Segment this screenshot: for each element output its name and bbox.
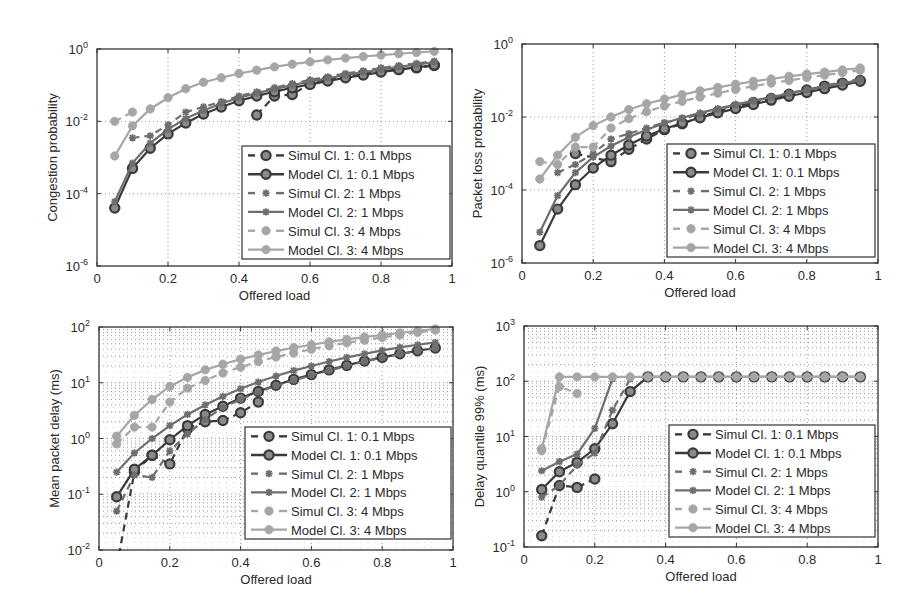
y-tick-label: 101 bbox=[71, 374, 90, 391]
x-tick-label: 0 bbox=[520, 552, 527, 567]
x-tick-label: 0 bbox=[518, 268, 525, 283]
legend: Simul Cl. 1: 0.1 MbpsModel Cl. 1: 0.1 Mb… bbox=[669, 425, 875, 537]
x-tick-label: 0.4 bbox=[230, 271, 248, 286]
x-axis-label: Offered load bbox=[665, 569, 736, 584]
legend-label: Simul Cl. 3: 4 Mbps bbox=[288, 224, 401, 239]
x-tick-label: 0.8 bbox=[798, 268, 816, 283]
x-tick-label: 0.8 bbox=[798, 552, 816, 567]
legend-label: Model Cl. 1: 0.1 Mbps bbox=[291, 448, 418, 463]
legend-label: Simul Cl. 1: 0.1 Mbps bbox=[288, 148, 412, 163]
y-tick-label: 10-1 bbox=[68, 485, 90, 502]
y-tick-label: 10-2 bbox=[68, 541, 90, 558]
x-tick-label: 1 bbox=[448, 271, 455, 286]
legend-label: Simul Cl. 1: 0.1 Mbps bbox=[291, 429, 415, 444]
x-axis-label: Offered load bbox=[239, 288, 310, 303]
subplot-packet-loss-probability: 00.20.40.60.8110-610-410-2100Offered loa… bbox=[470, 35, 882, 300]
x-tick-label: 0.4 bbox=[657, 552, 675, 567]
legend-label: Model Cl. 3: 4 Mbps bbox=[715, 521, 831, 536]
y-tick-label: 10-6 bbox=[491, 254, 513, 271]
legend-label: Model Cl. 2: 1 Mbps bbox=[715, 483, 831, 498]
subplot-congestion-probability: 00.20.40.60.8110-610-410-2100Offered loa… bbox=[45, 40, 456, 303]
y-tick-label: 100 bbox=[494, 35, 513, 52]
x-tick-label: 0.4 bbox=[655, 268, 673, 283]
x-axis-label: Offered load bbox=[240, 572, 311, 587]
legend-label: Simul Cl. 2: 1 Mbps bbox=[715, 465, 828, 480]
legend: Simul Cl. 1: 0.1 MbpsModel Cl. 1: 0.1 Mb… bbox=[242, 146, 450, 259]
legend-label: Simul Cl. 3: 4 Mbps bbox=[715, 502, 828, 517]
y-tick-label: 100 bbox=[69, 40, 88, 57]
x-tick-label: 0.2 bbox=[584, 268, 602, 283]
x-tick-label: 0.8 bbox=[373, 555, 391, 570]
x-tick-label: 0.6 bbox=[302, 555, 320, 570]
legend-label: Model Cl. 1: 0.1 Mbps bbox=[713, 165, 840, 180]
legend-label: Model Cl. 1: 0.1 Mbps bbox=[715, 446, 842, 461]
legend-label: Model Cl. 3: 4 Mbps bbox=[713, 241, 829, 256]
legend-label: Model Cl. 3: 4 Mbps bbox=[288, 243, 404, 258]
y-tick-label: 10-6 bbox=[66, 257, 88, 274]
x-tick-label: 0.2 bbox=[161, 555, 179, 570]
x-tick-label: 0.6 bbox=[301, 271, 319, 286]
legend-label: Simul Cl. 1: 0.1 Mbps bbox=[713, 146, 837, 161]
x-tick-label: 1 bbox=[874, 268, 881, 283]
y-tick-label: 100 bbox=[496, 483, 515, 500]
y-tick-label: 102 bbox=[71, 318, 90, 335]
legend-label: Simul Cl. 1: 0.1 Mbps bbox=[715, 427, 839, 442]
y-tick-label: 100 bbox=[71, 430, 90, 447]
legend-label: Simul Cl. 3: 4 Mbps bbox=[291, 504, 404, 519]
x-tick-label: 0.6 bbox=[727, 268, 745, 283]
legend-label: Simul Cl. 3: 4 Mbps bbox=[713, 222, 826, 237]
x-tick-label: 0.6 bbox=[727, 552, 745, 567]
x-axis-label: Offered load bbox=[664, 285, 735, 300]
legend-label: Simul Cl. 2: 1 Mbps bbox=[291, 467, 404, 482]
x-tick-label: 0 bbox=[95, 555, 102, 570]
legend: Simul Cl. 1: 0.1 MbpsModel Cl. 1: 0.1 Mb… bbox=[667, 144, 875, 257]
y-axis-label: Mean packet delay (ms) bbox=[47, 369, 62, 508]
y-tick-label: 10-2 bbox=[66, 112, 88, 129]
x-tick-label: 1 bbox=[449, 555, 456, 570]
legend: Simul Cl. 1: 0.1 MbpsModel Cl. 1: 0.1 Mb… bbox=[245, 427, 451, 539]
y-tick-label: 103 bbox=[496, 317, 515, 334]
legend-label: Simul Cl. 2: 1 Mbps bbox=[288, 186, 401, 201]
legend-label: Model Cl. 2: 1 Mbps bbox=[713, 203, 829, 218]
y-tick-label: 10-4 bbox=[491, 181, 513, 198]
y-tick-label: 101 bbox=[496, 428, 515, 445]
y-axis-label: Packet loss probability bbox=[470, 88, 485, 218]
y-axis-label: Congestion probability bbox=[45, 93, 60, 222]
y-tick-label: 10-2 bbox=[491, 108, 513, 125]
x-tick-label: 1 bbox=[874, 552, 881, 567]
x-tick-label: 0.4 bbox=[232, 555, 250, 570]
y-tick-label: 10-1 bbox=[493, 538, 515, 555]
y-axis-label: Delay quantile 99% (ms) bbox=[472, 366, 487, 508]
legend-label: Model Cl. 3: 4 Mbps bbox=[291, 523, 407, 538]
figure-canvas: 00.20.40.60.8110-610-410-2100Offered loa… bbox=[0, 0, 917, 614]
x-tick-label: 0.8 bbox=[372, 271, 390, 286]
legend-label: Simul Cl. 2: 1 Mbps bbox=[713, 184, 826, 199]
figure: 00.20.40.60.8110-610-410-2100Offered loa… bbox=[0, 0, 917, 614]
legend-label: Model Cl. 2: 1 Mbps bbox=[288, 205, 404, 220]
subplot-mean-packet-delay: 00.20.40.60.8110-210-1100101102Offered l… bbox=[47, 318, 457, 587]
x-tick-label: 0.2 bbox=[159, 271, 177, 286]
y-tick-label: 102 bbox=[496, 372, 515, 389]
x-tick-label: 0.2 bbox=[586, 552, 604, 567]
subplot-delay-quantile: 00.20.40.60.8110-1100101102103Offered lo… bbox=[472, 317, 882, 584]
legend-label: Model Cl. 2: 1 Mbps bbox=[291, 485, 407, 500]
x-tick-label: 0 bbox=[93, 271, 100, 286]
legend-label: Model Cl. 1: 0.1 Mbps bbox=[288, 167, 415, 182]
y-tick-label: 10-4 bbox=[66, 185, 88, 202]
